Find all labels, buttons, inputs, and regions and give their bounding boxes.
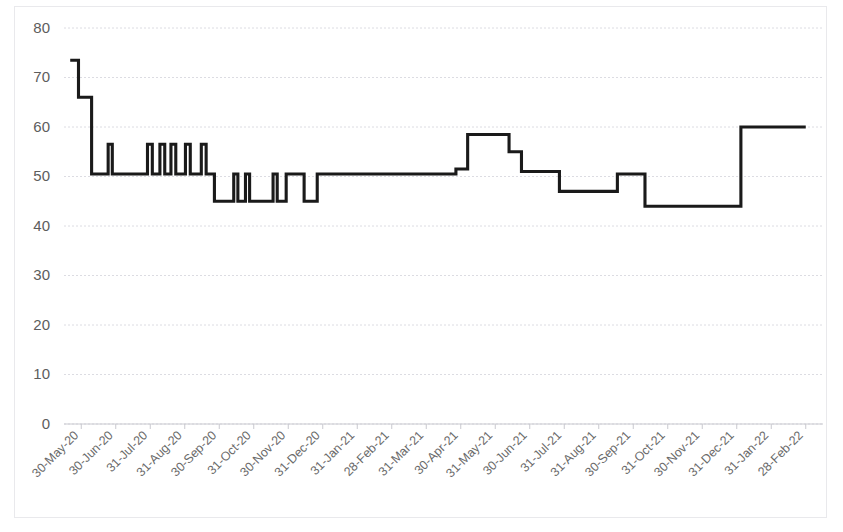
series-path xyxy=(70,60,806,206)
gridlines xyxy=(64,28,823,424)
y-axis-tick-label: 30 xyxy=(33,266,50,283)
y-axis-tick-label: 50 xyxy=(33,167,50,184)
x-axis-tickmarks xyxy=(81,424,806,429)
y-axis-tick-label: 60 xyxy=(33,118,50,135)
chart-container: 01020304050607080 30-May-2030-Jun-2031-J… xyxy=(0,0,843,532)
data-series-line xyxy=(70,60,806,206)
y-axis-tick-label: 70 xyxy=(33,68,50,85)
y-axis-tick-label: 0 xyxy=(42,415,50,432)
y-axis-tick-label: 40 xyxy=(33,217,50,234)
x-axis-tick-labels: 30-May-2030-Jun-2031-Jul-2031-Aug-2030-S… xyxy=(29,428,806,480)
y-axis-tick-labels: 01020304050607080 xyxy=(33,19,50,432)
step-line-chart: 01020304050607080 30-May-2030-Jun-2031-J… xyxy=(0,0,843,532)
y-axis-tick-label: 80 xyxy=(33,19,50,36)
y-axis-tick-label: 20 xyxy=(33,316,50,333)
y-axis-tick-label: 10 xyxy=(33,365,50,382)
